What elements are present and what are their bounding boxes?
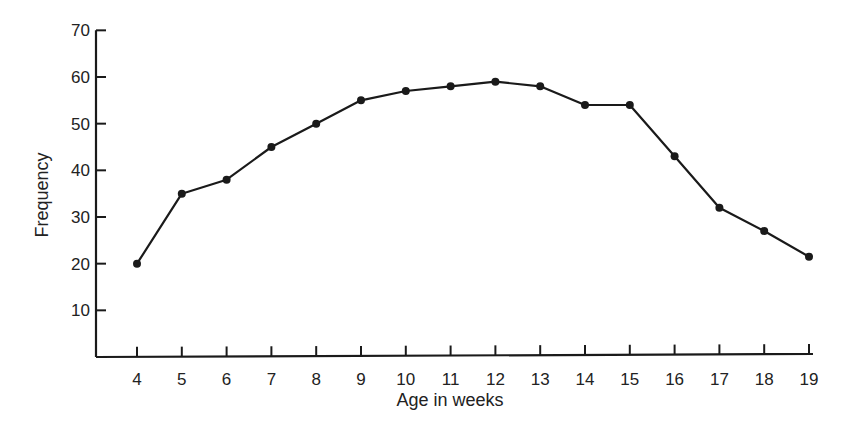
x-tick-label: 16 <box>665 370 684 389</box>
data-point <box>357 96 365 104</box>
y-tick-label: 40 <box>71 161 90 180</box>
y-tick-label: 70 <box>71 21 90 40</box>
data-point <box>715 204 723 212</box>
x-tick-label: 15 <box>620 370 639 389</box>
x-tick-label: 14 <box>576 370 595 389</box>
x-tick-label: 18 <box>755 370 774 389</box>
data-point <box>178 190 186 198</box>
x-tick-label: 5 <box>177 370 186 389</box>
y-tick-label: 60 <box>71 68 90 87</box>
x-tick-label: 19 <box>800 370 819 389</box>
x-tick-label: 17 <box>710 370 729 389</box>
x-tick-label: 6 <box>222 370 231 389</box>
data-point <box>133 260 141 268</box>
data-point <box>805 253 813 261</box>
y-axis: 10203040506070 <box>71 21 106 357</box>
x-tick-label: 4 <box>132 370 141 389</box>
x-axis-title: Age in weeks <box>396 390 503 410</box>
x-tick-label: 13 <box>531 370 550 389</box>
data-point <box>626 101 634 109</box>
x-tick-label: 10 <box>396 370 415 389</box>
x-tick-label: 12 <box>486 370 505 389</box>
data-point <box>671 152 679 160</box>
data-point <box>536 82 544 90</box>
data-point <box>491 78 499 86</box>
x-tick-label: 7 <box>267 370 276 389</box>
data-point <box>267 143 275 151</box>
data-line <box>137 82 809 264</box>
frequency-line-chart: 10203040506070 4567891011121314151617181… <box>0 0 855 426</box>
data-point <box>402 87 410 95</box>
data-point <box>447 82 455 90</box>
y-tick-label: 50 <box>71 115 90 134</box>
data-point <box>312 120 320 128</box>
data-point <box>760 227 768 235</box>
x-tick-label: 8 <box>311 370 320 389</box>
x-tick-label: 11 <box>442 370 460 389</box>
y-tick-label: 30 <box>71 208 90 227</box>
data-point <box>581 101 589 109</box>
data-point <box>223 176 231 184</box>
x-tick-label: 9 <box>356 370 365 389</box>
x-axis: 45678910111213141516171819 <box>96 344 818 389</box>
y-tick-label: 20 <box>71 255 90 274</box>
y-axis-title: Frequency <box>32 152 52 237</box>
y-tick-label: 10 <box>71 301 90 320</box>
